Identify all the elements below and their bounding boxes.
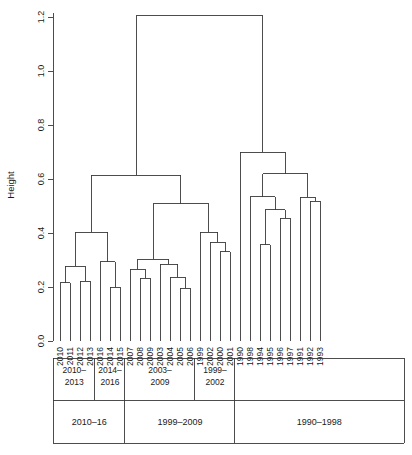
leaf-label-2005: 2005 xyxy=(175,347,185,366)
dendrogram-figure: 0.00.20.40.60.81.01.2Height2010201120122… xyxy=(0,0,412,455)
leaf-label-2013: 2013 xyxy=(85,347,95,366)
group-label: 1999–2009 xyxy=(157,417,202,427)
leaf-label-2009: 2009 xyxy=(145,347,155,366)
leaf-label-2007: 2007 xyxy=(125,347,135,366)
leaf-label-2010: 2010 xyxy=(55,347,65,366)
bracket-row1-label: 1999– xyxy=(203,365,227,375)
y-axis-title: Height xyxy=(5,171,16,199)
y-axis-tick-label: 0.0 xyxy=(36,335,46,348)
leaf-label-1996: 1996 xyxy=(275,347,285,366)
leaf-label-2004: 2004 xyxy=(165,347,175,366)
leaf-label-1992: 1992 xyxy=(305,347,315,366)
bracket-row1-label: 2009 xyxy=(151,377,170,387)
bracket-row1-label: 2013 xyxy=(65,377,84,387)
leaf-label-1990: 1990 xyxy=(235,347,245,366)
leaf-label-1995: 1995 xyxy=(265,347,275,366)
bracket-row1-label: 2003– xyxy=(148,365,172,375)
bracket-row1-label: 2002 xyxy=(206,377,225,387)
leaf-label-2012: 2012 xyxy=(75,347,85,366)
y-axis-tick-label: 1.2 xyxy=(36,11,46,24)
leaf-label-2001: 2001 xyxy=(225,347,235,366)
group-label: 1990–1998 xyxy=(297,417,342,427)
y-axis-tick-label: 0.4 xyxy=(36,227,46,240)
leaf-label-1991: 1991 xyxy=(295,347,305,366)
leaf-label-2011: 2011 xyxy=(65,347,75,366)
y-axis-tick-label: 0.8 xyxy=(36,119,46,132)
leaf-label-2014: 2014 xyxy=(105,347,115,366)
leaf-label-2008: 2008 xyxy=(135,347,145,366)
y-axis-tick-label: 0.6 xyxy=(36,173,46,186)
leaf-label-2000: 2000 xyxy=(215,347,225,366)
leaf-label-1998: 1998 xyxy=(245,347,255,366)
leaf-label-2006: 2006 xyxy=(185,347,195,366)
y-axis-tick-label: 1.0 xyxy=(36,65,46,78)
leaf-label-1994: 1994 xyxy=(255,347,265,366)
leaf-label-2003: 2003 xyxy=(155,347,165,366)
dendrogram-canvas: 0.00.20.40.60.81.01.2Height2010201120122… xyxy=(0,0,412,455)
leaf-label-1993: 1993 xyxy=(315,347,325,366)
leaf-label-2002: 2002 xyxy=(205,347,215,366)
bracket-row1-label: 2010– xyxy=(62,365,86,375)
bracket-row1-label: 2016 xyxy=(101,377,120,387)
bracket-row1-label: 2014– xyxy=(98,365,122,375)
group-label: 2010–16 xyxy=(72,417,107,427)
leaf-label-2016: 2016 xyxy=(95,347,105,366)
leaf-label-2015: 2015 xyxy=(115,347,125,366)
leaf-label-1997: 1997 xyxy=(285,347,295,366)
leaf-label-1999: 1999 xyxy=(195,347,205,366)
y-axis-tick-label: 0.2 xyxy=(36,281,46,294)
